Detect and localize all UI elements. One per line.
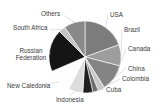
pie-label-indonesia: Indonesia xyxy=(56,96,84,103)
pie-label-brazil: Brazil xyxy=(124,26,140,33)
leader-line-usa xyxy=(106,15,108,28)
pie-label-canada: Canada xyxy=(128,45,150,52)
leader-line-brazil xyxy=(121,30,122,55)
leader-line-south-africa xyxy=(50,29,62,30)
pie-chart: Others USA Brazil Canada China Colombia … xyxy=(0,0,165,108)
pie-slice-group xyxy=(49,21,121,93)
leader-line-others xyxy=(62,14,74,23)
pie-label-cuba: Cuba xyxy=(106,86,121,93)
pie-chart-screenshot: Others USA Brazil Canada China Colombia … xyxy=(0,0,165,108)
pie-label-colombia: Colombia xyxy=(122,75,149,82)
pie-label-others: Others xyxy=(41,10,60,17)
pie-label-china: China xyxy=(128,65,145,72)
leader-line-indonesia xyxy=(70,92,76,95)
pie-label-russian-federation: Russian Federation xyxy=(8,47,54,61)
pie-label-south-africa: South Africa xyxy=(13,24,48,31)
pie-label-usa: USA xyxy=(110,11,123,18)
pie-label-new-caledonia: New Caledonia xyxy=(7,82,50,89)
